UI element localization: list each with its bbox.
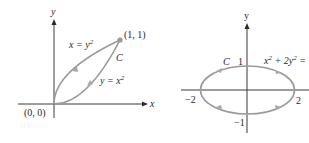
upper-curve-equation: x = y2 bbox=[68, 38, 94, 50]
curve-name-label: C bbox=[223, 56, 230, 67]
direction-arrow-bottom-right-icon bbox=[275, 105, 281, 110]
tick-y-neg: −1 bbox=[234, 117, 245, 128]
curve-name-label: C bbox=[116, 52, 123, 63]
tick-x-neg: −2 bbox=[185, 94, 196, 105]
figure-canvas: y x (0, 0) (1, 1) C x = y2 y = x2 y C 1 … bbox=[0, 0, 309, 143]
y-axis-label: y bbox=[50, 6, 56, 17]
endpoint-dot bbox=[117, 37, 122, 42]
right-figure: y C 1 −1 −2 2 x2 + 2y2 = bbox=[181, 10, 309, 133]
x-axis-arrow-icon bbox=[142, 102, 148, 107]
ellipse-equation: x2 + 2y2 = bbox=[263, 54, 306, 66]
lower-curve-equation: y = x2 bbox=[99, 74, 125, 86]
x-axis-label: x bbox=[149, 98, 155, 109]
left-figure: y x (0, 0) (1, 1) C x = y2 y = x2 bbox=[18, 6, 155, 119]
tick-x-pos: 2 bbox=[296, 95, 301, 106]
y-axis-arrow-icon bbox=[52, 19, 57, 25]
endpoint-label: (1, 1) bbox=[124, 29, 146, 41]
y-axis-arrow-icon bbox=[245, 23, 250, 29]
origin-label: (0, 0) bbox=[24, 107, 46, 119]
tick-y-pos: 1 bbox=[238, 56, 243, 67]
y-axis-label: y bbox=[244, 10, 249, 21]
